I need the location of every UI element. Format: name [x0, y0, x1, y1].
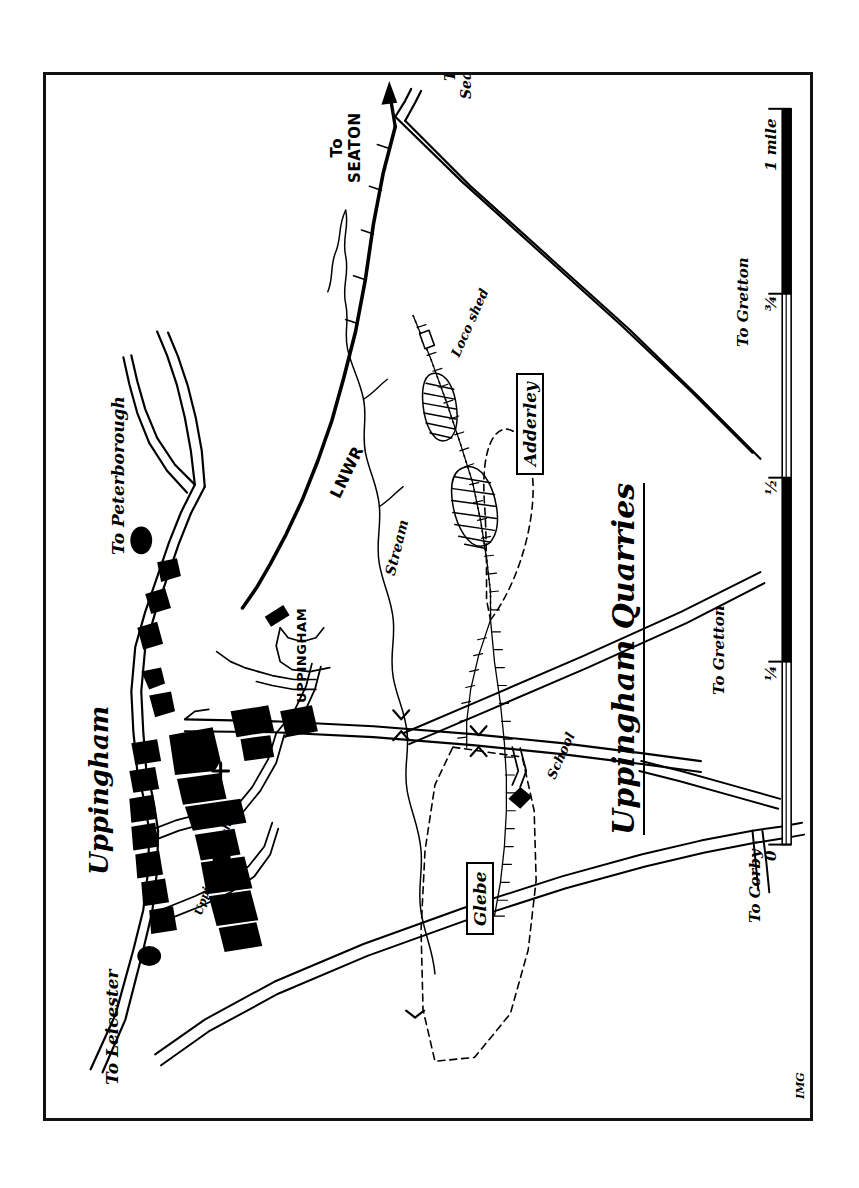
label-uppingham-station: UPPINGHAM: [294, 608, 309, 703]
railway-lnwr: [242, 127, 395, 608]
town-buildings: [129, 526, 318, 965]
label-to-seaton-road-line2: Seaton: [458, 72, 474, 99]
map-artwork: [46, 75, 810, 1118]
tramway-adderley-solid: [413, 316, 490, 620]
label-to-seaton-rail-line2: SEATON: [346, 112, 364, 183]
map-page: Uppingham Quarries Uppingham Uppingham S…: [0, 0, 859, 1188]
station-building: [265, 605, 290, 627]
loco-shed-building: [420, 330, 435, 348]
railway-arrow-to-seaton: [381, 81, 397, 127]
stream-feeders: [364, 379, 404, 506]
scale-tick-three-quarter: ¾: [762, 295, 780, 311]
scale-tick-one-mile: 1 mile: [762, 119, 780, 171]
tramway-adderley: [413, 316, 490, 620]
road-to-school: [512, 747, 526, 787]
road-to-seaton-upper: [395, 89, 760, 459]
label-to-seaton-road-line1: To: [442, 72, 458, 99]
map-frame: Uppingham Quarries Uppingham Uppingham S…: [43, 72, 813, 1121]
label-to-seaton-rail-line1: To: [328, 112, 346, 183]
school-building: [508, 787, 532, 809]
label-quarry-glebe: Glebe: [466, 863, 494, 936]
label-to-leicester: To Leicester: [102, 969, 122, 1085]
label-to-gretton-lower: To Gretton: [710, 605, 728, 695]
stream-branch: [328, 210, 346, 292]
label-to-seaton-road: To Seaton: [442, 72, 474, 99]
artist-signature: IMG: [794, 1072, 807, 1099]
scale-tick-0: 0: [762, 851, 780, 861]
label-to-peterborough: To Peterborough: [108, 396, 128, 555]
label-quarry-adderley: Adderley: [516, 373, 544, 475]
label-uppingham-town: Uppingham: [84, 706, 114, 875]
map-title: Uppingham Quarries: [606, 483, 645, 835]
road-to-gretton-lower: [639, 761, 780, 809]
scale-tick-half: ½: [762, 479, 780, 495]
label-to-gretton-upper: To Gretton: [734, 257, 752, 347]
station-approach: [217, 628, 330, 690]
label-to-seaton-rail: To SEATON: [328, 112, 364, 183]
scale-tick-quarter: ¼: [762, 665, 780, 681]
